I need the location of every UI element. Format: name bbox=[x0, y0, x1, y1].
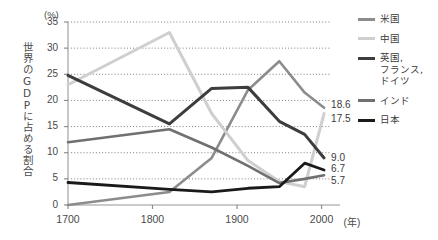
series-end-value-label: 6.7 bbox=[331, 163, 345, 174]
y-tick-label: 25 bbox=[36, 68, 58, 79]
legend-item: 日本 bbox=[358, 114, 438, 126]
legend-color-swatch bbox=[358, 57, 375, 60]
legend-item: インド bbox=[358, 95, 438, 107]
legend-color-swatch bbox=[358, 99, 375, 102]
y-tick-label: 20 bbox=[36, 94, 58, 105]
legend-item-label: 日本 bbox=[380, 114, 400, 126]
y-tick-label: 5 bbox=[36, 172, 58, 183]
x-tick-label: 1700 bbox=[48, 213, 88, 225]
legend-color-swatch bbox=[358, 37, 375, 40]
gdp-share-line-chart: 世界のGDPに占める割合 (%) 05101520253035 17001800… bbox=[0, 0, 438, 240]
y-tick-label: 30 bbox=[36, 42, 58, 53]
chart-legend: 米国中国英国, フランス, ドイツインド日本 bbox=[358, 13, 438, 134]
legend-item: 中国 bbox=[358, 33, 438, 45]
legend-item-label: 米国 bbox=[380, 13, 400, 25]
legend-item: 英国, フランス, ドイツ bbox=[358, 52, 438, 87]
y-tick-label: 35 bbox=[36, 16, 58, 27]
legend-item-label: インド bbox=[380, 95, 410, 107]
series-end-value-label: 5.7 bbox=[331, 175, 345, 186]
legend-item-label: 英国, フランス, ドイツ bbox=[380, 52, 423, 87]
legend-color-swatch bbox=[358, 18, 375, 21]
series-line-3 bbox=[68, 129, 324, 183]
series-line-4 bbox=[68, 163, 324, 192]
series-end-value-label: 9.0 bbox=[331, 152, 345, 163]
series-end-value-label: 18.6 bbox=[331, 99, 350, 110]
y-tick-label: 15 bbox=[36, 120, 58, 131]
legend-item-label: 中国 bbox=[380, 33, 400, 45]
series-end-value-label: 17.5 bbox=[331, 113, 350, 124]
legend-item: 米国 bbox=[358, 13, 438, 25]
x-tick-label: 1800 bbox=[133, 213, 173, 225]
x-tick-label: 2000 bbox=[302, 213, 342, 225]
y-tick-label: 0 bbox=[36, 199, 58, 210]
x-tick-label: 1900 bbox=[217, 213, 257, 225]
series-line-1 bbox=[68, 32, 324, 186]
x-axis-unit-label: (年) bbox=[344, 214, 361, 229]
series-line-2 bbox=[68, 75, 324, 158]
y-tick-label: 10 bbox=[36, 146, 58, 157]
legend-color-swatch bbox=[358, 119, 375, 122]
y-axis-title: 世界のGDPに占める割合 bbox=[14, 42, 32, 177]
